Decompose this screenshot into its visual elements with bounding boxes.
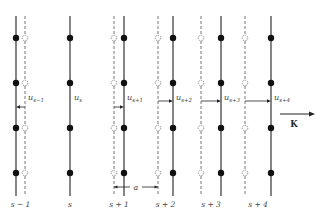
- atom: [170, 35, 176, 41]
- atom: [218, 170, 224, 176]
- equilibrium-atom: [111, 125, 117, 131]
- equilibrium-atom: [155, 125, 161, 131]
- atom: [13, 125, 19, 131]
- displacement-label: us+4: [274, 93, 291, 103]
- equilibrium-atom: [198, 35, 204, 41]
- equilibrium-atom: [111, 80, 117, 86]
- atom: [121, 35, 127, 41]
- equilibrium-atom: [242, 80, 248, 86]
- displacement-label: us: [74, 93, 82, 103]
- atom: [268, 35, 274, 41]
- displacement-label: us−1: [28, 93, 44, 103]
- equilibrium-atom: [22, 125, 28, 131]
- equilibrium-atom: [198, 170, 204, 176]
- equilibrium-atom: [111, 170, 117, 176]
- atom: [170, 125, 176, 131]
- displacement-label: us+1: [127, 93, 143, 103]
- plane-index-label: s + 3: [201, 200, 221, 209]
- lattice-wave-diagram: us−1s − 1ussus+1s + 1us+2s + 2us+3s + 3u…: [0, 0, 321, 222]
- atom: [121, 80, 127, 86]
- atom: [67, 170, 73, 176]
- atom: [67, 125, 73, 131]
- displacement-label: us+2: [176, 93, 193, 103]
- equilibrium-atom: [198, 125, 204, 131]
- atom: [218, 35, 224, 41]
- plane-index-label: s: [68, 200, 72, 209]
- arrowhead-icon: [155, 185, 159, 188]
- plane-index-label: s − 1: [11, 200, 31, 209]
- atom: [13, 170, 19, 176]
- atom: [218, 80, 224, 86]
- plane-index-label: s + 1: [109, 200, 129, 209]
- atom: [13, 80, 19, 86]
- atom: [268, 170, 274, 176]
- equilibrium-atom: [155, 80, 161, 86]
- atom: [13, 35, 19, 41]
- atom: [121, 125, 127, 131]
- equilibrium-atom: [242, 35, 248, 41]
- equilibrium-atom: [22, 170, 28, 176]
- arrowhead-icon: [114, 185, 118, 188]
- equilibrium-atom: [111, 35, 117, 41]
- atom: [268, 125, 274, 131]
- equilibrium-atom: [22, 35, 28, 41]
- equilibrium-atom: [242, 170, 248, 176]
- atom: [121, 170, 127, 176]
- atom: [218, 125, 224, 131]
- wavevector-label: K: [290, 119, 298, 129]
- arrowhead-icon: [309, 112, 315, 117]
- atom: [170, 170, 176, 176]
- equilibrium-atom: [242, 125, 248, 131]
- equilibrium-atom: [22, 80, 28, 86]
- plane-index-label: s + 4: [248, 200, 268, 209]
- atom: [268, 80, 274, 86]
- equilibrium-atom: [155, 170, 161, 176]
- atom: [67, 80, 73, 86]
- atom: [67, 35, 73, 41]
- plane-index-label: s + 2: [156, 200, 176, 209]
- atom: [170, 80, 176, 86]
- equilibrium-atom: [155, 35, 161, 41]
- spacing-label: a: [134, 183, 139, 192]
- displacement-label: us+3: [224, 93, 241, 103]
- equilibrium-atom: [198, 80, 204, 86]
